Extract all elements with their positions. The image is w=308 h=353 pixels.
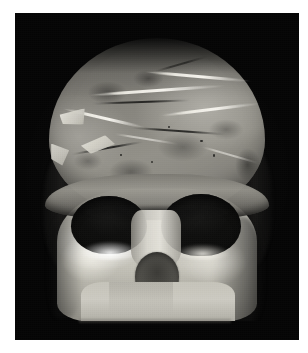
skull-photograph: Frontal view of a reconstructed fossil h… (15, 13, 299, 340)
bone-pit (120, 154, 122, 156)
skull-figure (43, 38, 271, 308)
specimen-bottom-cut (37, 321, 281, 340)
bone-pit (213, 154, 215, 157)
photo-alt-text: Frontal view of a reconstructed fossil h… (15, 13, 16, 14)
bone-pit (168, 126, 170, 128)
page-root: Frontal view of a reconstructed fossil h… (0, 0, 308, 353)
